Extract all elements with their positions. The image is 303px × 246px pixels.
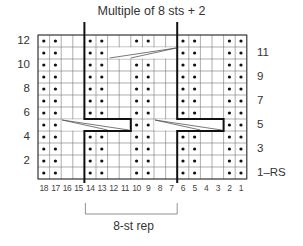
- purl-dot: [193, 135, 196, 138]
- purl-dot: [54, 87, 57, 90]
- purl-dot: [89, 111, 92, 114]
- purl-dot: [54, 171, 57, 174]
- purl-dot: [135, 39, 138, 42]
- purl-dot: [135, 63, 138, 66]
- purl-dot: [239, 99, 242, 102]
- purl-dot: [193, 147, 196, 150]
- purl-dot: [135, 159, 138, 162]
- purl-dot: [135, 87, 138, 90]
- purl-dot: [135, 123, 138, 126]
- purl-dot: [193, 39, 196, 42]
- purl-dot: [54, 75, 57, 78]
- purl-dot: [239, 111, 242, 114]
- purl-dot: [239, 147, 242, 150]
- purl-dot: [100, 87, 103, 90]
- purl-dot: [228, 159, 231, 162]
- purl-dot: [42, 147, 45, 150]
- row-label-left: 2: [10, 154, 30, 166]
- purl-dot: [181, 171, 184, 174]
- purl-dot: [89, 75, 92, 78]
- purl-dot: [42, 135, 45, 138]
- row-label-right: 5: [257, 118, 263, 130]
- purl-dot: [54, 99, 57, 102]
- purl-dot: [181, 63, 184, 66]
- purl-dot: [181, 51, 184, 54]
- repeat-label: 8-st rep: [87, 219, 180, 233]
- row-label-left: 12: [10, 34, 30, 46]
- purl-dot: [42, 123, 45, 126]
- purl-dot: [89, 147, 92, 150]
- purl-dot: [89, 171, 92, 174]
- purl-dot: [135, 75, 138, 78]
- purl-dot: [100, 51, 103, 54]
- purl-dot: [147, 147, 150, 150]
- purl-dot: [147, 39, 150, 42]
- purl-dot: [89, 39, 92, 42]
- purl-dot: [89, 159, 92, 162]
- column-label: 8: [154, 183, 166, 193]
- purl-dot: [181, 159, 184, 162]
- purl-dot: [42, 87, 45, 90]
- purl-dot: [181, 135, 184, 138]
- purl-dot: [239, 123, 242, 126]
- column-label: 17: [50, 183, 62, 193]
- purl-dot: [239, 87, 242, 90]
- purl-dot: [239, 63, 242, 66]
- row-label-right: 3: [257, 142, 263, 154]
- column-label: 1: [235, 183, 247, 193]
- purl-dot: [193, 171, 196, 174]
- purl-dot: [42, 99, 45, 102]
- purl-dot: [228, 87, 231, 90]
- purl-dot: [147, 135, 150, 138]
- purl-dot: [228, 123, 231, 126]
- purl-dot: [100, 171, 103, 174]
- purl-dot: [181, 87, 184, 90]
- purl-dot: [228, 111, 231, 114]
- purl-dot: [228, 51, 231, 54]
- purl-dot: [228, 63, 231, 66]
- purl-dot: [54, 147, 57, 150]
- purl-dot: [135, 99, 138, 102]
- repeat-bracket: [85, 203, 177, 214]
- purl-dot: [228, 171, 231, 174]
- purl-dot: [54, 51, 57, 54]
- purl-dot: [147, 87, 150, 90]
- purl-dot: [54, 159, 57, 162]
- purl-dot: [100, 135, 103, 138]
- row-label-left: 4: [10, 130, 30, 142]
- purl-dot: [193, 87, 196, 90]
- column-label: 6: [177, 183, 189, 193]
- purl-dot: [100, 99, 103, 102]
- purl-dot: [181, 39, 184, 42]
- purl-dot: [135, 147, 138, 150]
- purl-dot: [147, 123, 150, 126]
- row-label-left: 10: [10, 58, 30, 70]
- purl-dot: [239, 39, 242, 42]
- purl-dot: [89, 63, 92, 66]
- purl-dot: [89, 87, 92, 90]
- purl-dot: [147, 159, 150, 162]
- purl-dot: [100, 39, 103, 42]
- column-label: 4: [200, 183, 212, 193]
- purl-dot: [54, 63, 57, 66]
- purl-dot: [228, 135, 231, 138]
- column-label: 12: [108, 183, 120, 193]
- purl-dot: [239, 51, 242, 54]
- column-label: 10: [131, 183, 143, 193]
- purl-dot: [147, 171, 150, 174]
- purl-dot: [239, 159, 242, 162]
- purl-dot: [239, 75, 242, 78]
- row-label-left: 6: [10, 106, 30, 118]
- purl-dot: [228, 147, 231, 150]
- purl-dot: [239, 171, 242, 174]
- purl-dot: [193, 159, 196, 162]
- purl-dot: [42, 159, 45, 162]
- column-label: 5: [189, 183, 201, 193]
- column-label: 2: [224, 183, 236, 193]
- purl-dot: [239, 135, 242, 138]
- purl-dot: [89, 51, 92, 54]
- purl-dot: [100, 147, 103, 150]
- purl-dot: [100, 63, 103, 66]
- purl-dot: [181, 99, 184, 102]
- purl-dot: [54, 39, 57, 42]
